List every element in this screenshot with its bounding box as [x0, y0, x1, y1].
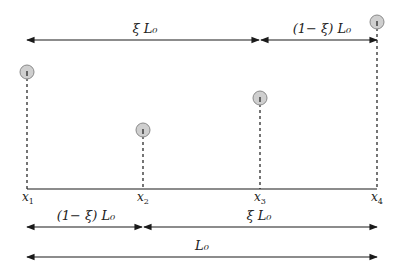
particle-x4	[370, 15, 384, 29]
label-x3: x3	[254, 190, 266, 206]
diagram-svg: ξ L₀ (1− ξ) L₀ x1 x2 x3 x4 (1− ξ) L₀ ξ L…	[0, 0, 402, 276]
total-length-label: L₀	[194, 238, 210, 253]
bottom-left-label: (1− ξ) L₀	[57, 208, 116, 223]
top-right-label: (1− ξ) L₀	[293, 21, 352, 36]
particle-x3	[253, 91, 267, 105]
top-left-label: ξ L₀	[132, 21, 158, 36]
diagram-canvas: ξ L₀ (1− ξ) L₀ x1 x2 x3 x4 (1− ξ) L₀ ξ L…	[0, 0, 402, 276]
label-x2: x2	[137, 190, 149, 206]
particle-x2	[136, 123, 150, 137]
particle-x1	[20, 65, 34, 79]
bottom-right-label: ξ L₀	[246, 208, 272, 223]
label-x1: x1	[22, 190, 34, 206]
label-x4: x4	[371, 190, 383, 206]
